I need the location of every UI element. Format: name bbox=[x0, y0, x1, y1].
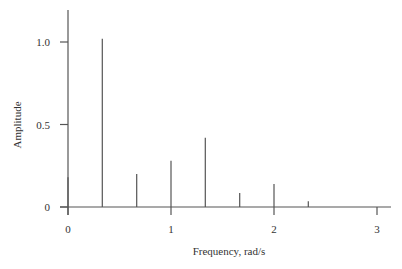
x-tick-label: 1 bbox=[168, 223, 174, 235]
y-tick-label: 0.5 bbox=[36, 119, 50, 131]
x-tick-label: 0 bbox=[65, 223, 71, 235]
y-ticks: 00.51.0 bbox=[36, 36, 68, 213]
x-tick-label: 2 bbox=[271, 223, 277, 235]
y-tick-label: 1.0 bbox=[36, 36, 50, 48]
x-tick-label: 3 bbox=[374, 223, 380, 235]
stem-chart: 0123 00.51.0 Frequency, rad/s Amplitude bbox=[0, 0, 402, 269]
axes bbox=[60, 10, 391, 215]
stems bbox=[68, 39, 308, 207]
x-axis-label: Frequency, rad/s bbox=[193, 245, 266, 257]
y-tick-label: 0 bbox=[45, 201, 51, 213]
x-ticks: 0123 bbox=[65, 207, 380, 235]
y-axis-label: Amplitude bbox=[11, 101, 23, 148]
